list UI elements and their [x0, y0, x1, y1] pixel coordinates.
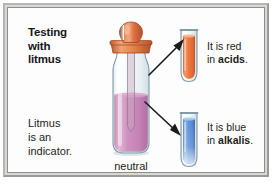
callout-acid-line-2: in acids. — [207, 53, 275, 66]
callout-acid-line-1: It is red — [207, 40, 275, 53]
callout-acid-keyword: acids — [218, 53, 245, 65]
arrow-to-red-tube — [146, 34, 190, 78]
figure-title-line-3: litmus — [28, 53, 98, 67]
callout-alkali-line-2: in alkalis. — [207, 134, 275, 147]
figure-subtitle: Litmus is an indicator. — [28, 116, 102, 158]
callout-alkali-line-1: It is blue — [207, 121, 275, 134]
figure-root: Testing with litmus Litmus is an indicat… — [0, 0, 275, 184]
dropper-bulb — [120, 22, 143, 43]
figure-subtitle-line-2: is an — [28, 130, 102, 144]
figure-title: Testing with litmus — [28, 26, 98, 67]
callout-acid: It is red in acids. — [207, 40, 275, 66]
callout-alkali-suffix: . — [250, 134, 253, 146]
figure-title-line-1: Testing — [28, 26, 98, 40]
callout-alkali-keyword: alkalis — [218, 134, 250, 146]
callout-acid-prefix: in — [207, 53, 218, 65]
arrow-to-red-tube-graphic — [146, 34, 190, 78]
dropper-pipette — [128, 52, 135, 132]
bottle-label: neutral — [96, 160, 166, 172]
arrow-to-blue-tube-graphic — [142, 98, 190, 142]
bulb-highlight — [124, 25, 129, 35]
figure-title-line-2: with — [28, 40, 98, 54]
callout-alkali: It is blue in alkalis. — [207, 121, 275, 147]
callout-alkali-prefix: in — [207, 134, 218, 146]
callout-acid-suffix: . — [245, 53, 248, 65]
bottle-base-shadow — [113, 150, 149, 156]
bottle-highlight — [118, 74, 122, 146]
figure-panel: Testing with litmus Litmus is an indicat… — [8, 8, 264, 172]
figure-subtitle-line-3: indicator. — [28, 144, 102, 158]
arrow-to-blue-tube — [142, 98, 190, 142]
figure-subtitle-line-1: Litmus — [28, 116, 102, 130]
